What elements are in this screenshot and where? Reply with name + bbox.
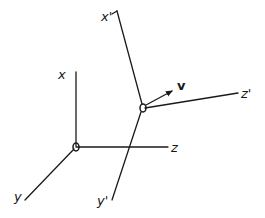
coordinate-frames-diagram: x y z x' y' z' v xyxy=(0,0,265,218)
y-axis xyxy=(25,149,74,200)
x-prime-axis xyxy=(117,11,142,104)
y-prime-axis xyxy=(112,112,141,200)
z-prime-axis-label: z' xyxy=(240,86,251,101)
velocity-label: v xyxy=(177,78,186,93)
x-prime-axis-label: x' xyxy=(100,9,112,24)
z-axis-label: z xyxy=(170,140,179,155)
frame-s-prime: x' y' z' v xyxy=(96,9,251,208)
y-prime-axis-label: y' xyxy=(96,193,108,208)
x-axis-label: x xyxy=(57,67,66,82)
z-prime-axis xyxy=(145,93,238,108)
velocity-arrow xyxy=(146,91,172,105)
x-prime-tick xyxy=(112,11,117,14)
frame-s: x y z xyxy=(13,67,179,204)
y-axis-label: y xyxy=(13,189,22,204)
